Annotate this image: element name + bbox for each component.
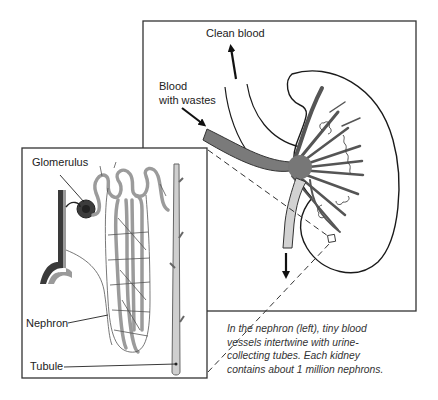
- label-glomerulus: Glomerulus: [32, 156, 88, 169]
- label-blood-with-wastes-line2: with wastes: [159, 94, 216, 107]
- caption-line: contains about 1 million nephrons.: [227, 363, 427, 377]
- nephron-location-marker: [328, 234, 336, 242]
- caption-line: vessels intertwine with urine-: [227, 336, 427, 350]
- label-blood-with-wastes-line1: Blood: [159, 80, 187, 93]
- caption-line: collecting tubes. Each kidney: [227, 349, 427, 363]
- renal-hilum: [288, 155, 312, 179]
- label-tubule: Tubule: [30, 360, 63, 373]
- label-clean-blood: Clean blood: [206, 27, 265, 40]
- label-nephron: Nephron: [26, 317, 68, 330]
- nephron-panel: [22, 148, 207, 378]
- figure-caption: In the nephron (left), tiny blood vessel…: [227, 322, 427, 376]
- collecting-tubule: [172, 164, 180, 375]
- caption-line: In the nephron (left), tiny blood: [227, 322, 427, 336]
